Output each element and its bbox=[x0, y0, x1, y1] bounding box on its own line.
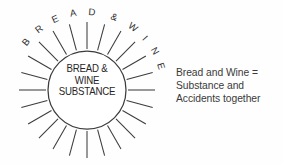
sun-ray bbox=[69, 24, 76, 50]
sun-ray bbox=[69, 130, 76, 156]
sun-ray bbox=[127, 101, 153, 108]
sun-ray bbox=[123, 56, 146, 70]
core-label-line-2: WINE bbox=[51, 75, 124, 87]
sun-ray bbox=[108, 31, 122, 54]
sun-ray bbox=[123, 111, 146, 125]
core-label-line-3: SUBSTANCE bbox=[51, 86, 124, 98]
caption-line-1: Bread and Wine = bbox=[176, 66, 282, 79]
sun-ray bbox=[28, 111, 51, 125]
sun-diagram: BREAD & WINE SUBSTANCE BREAD&WINE bbox=[0, 0, 175, 165]
caption-line-3: Accidents together bbox=[176, 92, 282, 105]
sun-ray bbox=[116, 119, 135, 138]
sun-ray bbox=[39, 42, 58, 61]
sun-ray bbox=[21, 101, 47, 108]
caption-text: Bread and Wine = Substance and Accidents… bbox=[176, 66, 282, 106]
sun-ray bbox=[21, 72, 47, 79]
sun-ray bbox=[53, 126, 67, 149]
caption-line-2: Substance and bbox=[176, 79, 282, 92]
sun-ray bbox=[127, 72, 153, 79]
sun-ray bbox=[108, 126, 122, 149]
sun-ray bbox=[98, 130, 105, 156]
sun-ray bbox=[116, 42, 135, 61]
sun-ray bbox=[98, 24, 105, 50]
sun-ray bbox=[39, 119, 58, 138]
substance-core-label: BREAD & WINE SUBSTANCE bbox=[51, 63, 124, 98]
diagram-canvas: BREAD & WINE SUBSTANCE BREAD&WINE Bread … bbox=[0, 0, 283, 165]
sun-ray bbox=[28, 56, 51, 70]
arc-letter: D bbox=[89, 7, 97, 17]
core-label-line-1: BREAD & bbox=[51, 63, 124, 75]
sun-ray bbox=[53, 31, 67, 54]
